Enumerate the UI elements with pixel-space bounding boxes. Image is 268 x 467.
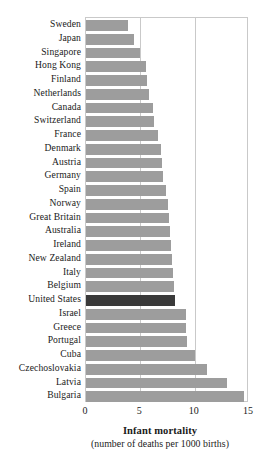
x-axis-title: Infant mortality (number of deaths per 1…	[60, 424, 260, 450]
category-label-belgium: Belgium	[0, 278, 81, 292]
category-label-austria: Austria	[0, 155, 81, 169]
bar-singapore	[86, 48, 140, 59]
bar-row	[86, 279, 247, 293]
x-tick-label-5: 5	[137, 404, 142, 417]
x-tick-label-0: 0	[83, 404, 88, 417]
x-axis-tick-labels: 051015	[85, 404, 248, 418]
bar-row	[86, 128, 247, 142]
bar-row	[86, 389, 247, 403]
bar-row	[86, 362, 247, 376]
bar-greece	[86, 323, 186, 334]
category-label-greece: Greece	[0, 320, 81, 334]
category-label-czechoslovakia: Czechoslovakia	[0, 361, 81, 375]
bar-israel	[86, 309, 186, 320]
bar-denmark	[86, 144, 161, 155]
bar-row	[86, 348, 247, 362]
bar-row	[86, 266, 247, 280]
x-axis-title-main: Infant mortality	[60, 424, 260, 437]
bar-row	[86, 252, 247, 266]
category-label-great-britain: Great Britain	[0, 210, 81, 224]
bar-row	[86, 101, 247, 115]
infant-mortality-bar-chart: SwedenJapanSingaporeHong KongFinlandNeth…	[0, 0, 268, 467]
category-label-new-zealand: New Zealand	[0, 251, 81, 265]
bar-united-states	[86, 295, 175, 306]
bar-japan	[86, 34, 134, 45]
bar-row	[86, 211, 247, 225]
category-label-switzerland: Switzerland	[0, 113, 81, 127]
bar-bulgaria	[86, 391, 244, 402]
category-label-norway: Norway	[0, 196, 81, 210]
category-label-latvia: Latvia	[0, 375, 81, 389]
category-label-italy: Italy	[0, 265, 81, 279]
bar-row	[86, 18, 247, 32]
category-label-australia: Australia	[0, 223, 81, 237]
category-label-finland: Finland	[0, 72, 81, 86]
bar-germany	[86, 171, 163, 182]
category-label-bulgaria: Bulgaria	[0, 388, 81, 402]
bar-row	[86, 376, 247, 390]
plot-area	[85, 17, 248, 402]
bar-row	[86, 307, 247, 321]
bar-row	[86, 293, 247, 307]
bar-canada	[86, 103, 153, 114]
bar-row	[86, 321, 247, 335]
bar-italy	[86, 268, 173, 279]
bar-row	[86, 238, 247, 252]
bar-ireland	[86, 240, 171, 251]
bar-netherlands	[86, 89, 149, 100]
bar-row	[86, 169, 247, 183]
category-label-cuba: Cuba	[0, 347, 81, 361]
bar-new-zealand	[86, 254, 172, 265]
bar-france	[86, 130, 158, 141]
bar-row	[86, 156, 247, 170]
bar-row	[86, 142, 247, 156]
category-label-germany: Germany	[0, 168, 81, 182]
bar-row	[86, 197, 247, 211]
bar-rows	[86, 18, 247, 401]
category-label-netherlands: Netherlands	[0, 86, 81, 100]
bar-row	[86, 59, 247, 73]
category-label-united-states: United States	[0, 292, 81, 306]
bar-row	[86, 32, 247, 46]
category-label-denmark: Denmark	[0, 141, 81, 155]
bar-row	[86, 73, 247, 87]
bar-australia	[86, 226, 170, 237]
bar-hong-kong	[86, 61, 146, 72]
bar-row	[86, 224, 247, 238]
bar-finland	[86, 75, 147, 86]
x-tick-label-15: 15	[243, 404, 253, 417]
bar-belgium	[86, 281, 174, 292]
category-label-singapore: Singapore	[0, 45, 81, 59]
bar-great-britain	[86, 213, 169, 224]
category-label-sweden: Sweden	[0, 17, 81, 31]
x-tick-label-10: 10	[189, 404, 199, 417]
category-label-portugal: Portugal	[0, 333, 81, 347]
bar-latvia	[86, 378, 227, 389]
bar-austria	[86, 158, 162, 169]
bar-czechoslovakia	[86, 364, 207, 375]
category-label-hong-kong: Hong Kong	[0, 58, 81, 72]
bar-row	[86, 114, 247, 128]
category-label-france: France	[0, 127, 81, 141]
bar-row	[86, 334, 247, 348]
bar-sweden	[86, 20, 128, 31]
category-label-canada: Canada	[0, 100, 81, 114]
bar-spain	[86, 185, 166, 196]
x-axis-title-sub: (number of deaths per 1000 births)	[60, 437, 260, 450]
category-label-ireland: Ireland	[0, 237, 81, 251]
category-axis-labels: SwedenJapanSingaporeHong KongFinlandNeth…	[0, 17, 81, 402]
bar-norway	[86, 199, 168, 210]
category-label-israel: Israel	[0, 306, 81, 320]
category-label-spain: Spain	[0, 182, 81, 196]
category-label-japan: Japan	[0, 31, 81, 45]
bar-cuba	[86, 350, 195, 361]
bar-row	[86, 46, 247, 60]
bar-row	[86, 87, 247, 101]
bar-portugal	[86, 336, 187, 347]
bar-row	[86, 183, 247, 197]
bar-switzerland	[86, 116, 154, 127]
